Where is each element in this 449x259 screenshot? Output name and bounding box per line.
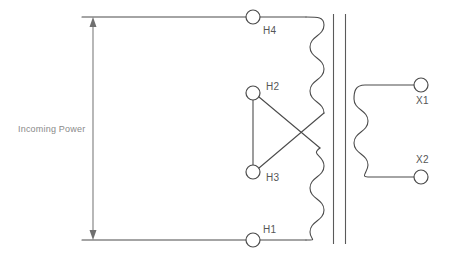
terminal-x1-label: X1 [416, 95, 429, 106]
primary-supply-leads [82, 17, 306, 240]
terminal-h2-label: H2 [266, 81, 280, 92]
terminal-h4[interactable]: H4 [246, 10, 277, 36]
terminal-x1[interactable]: X1 [414, 78, 429, 106]
transformer-core [334, 14, 346, 244]
dimension-arrowhead-bottom [90, 230, 97, 240]
center-tap-connections [253, 97, 324, 168]
terminal-h3[interactable]: H3 [246, 165, 280, 183]
primary-coil [306, 17, 324, 240]
transformer-diagram: Incoming Power [0, 0, 449, 259]
terminal-x2-label: X2 [416, 154, 429, 165]
incoming-power-dimension: Incoming Power [18, 17, 97, 240]
terminal-x2[interactable]: X2 [414, 154, 429, 184]
terminal-h1[interactable]: H1 [246, 224, 277, 247]
secondary-terminals: X1 X2 [414, 78, 429, 184]
terminal-x1-circle[interactable] [414, 78, 428, 92]
tap-diagonal-h2-to-lower-coil [259, 97, 320, 148]
terminal-h3-circle[interactable] [246, 165, 260, 179]
incoming-power-label: Incoming Power [18, 124, 85, 134]
dimension-arrowhead-top [90, 17, 97, 27]
terminal-h2[interactable]: H2 [246, 81, 280, 100]
primary-coil-upper-section [306, 17, 324, 113]
terminal-h1-circle[interactable] [246, 233, 260, 247]
terminal-h2-circle[interactable] [246, 86, 260, 100]
tap-diagonal-h3-to-upper-coil [259, 113, 324, 168]
primary-coil-lower-section [306, 148, 324, 240]
secondary-coil-path [354, 85, 414, 177]
terminal-h3-label: H3 [266, 172, 280, 183]
terminal-h4-label: H4 [263, 25, 277, 36]
terminal-x2-circle[interactable] [414, 170, 428, 184]
wiring-diagram-canvas: Incoming Power [0, 0, 449, 259]
primary-terminals: H4 H2 H3 H1 [246, 10, 280, 247]
terminal-h1-label: H1 [263, 224, 277, 235]
secondary-coil [354, 85, 414, 177]
terminal-h4-circle[interactable] [246, 10, 260, 24]
